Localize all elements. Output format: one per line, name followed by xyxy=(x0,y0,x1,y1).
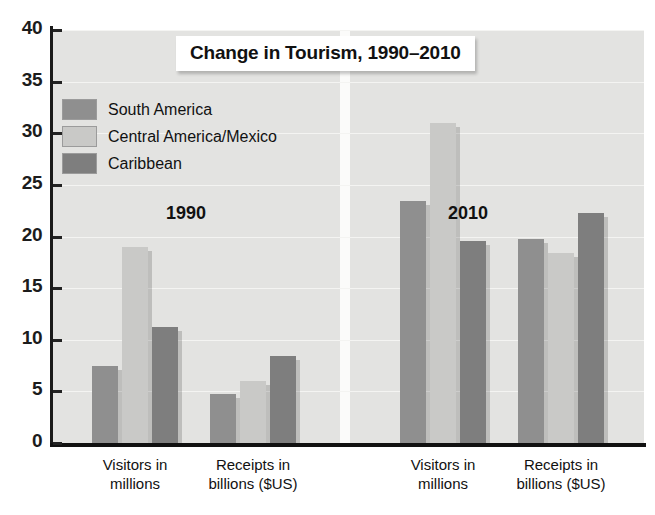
bars-layer xyxy=(52,30,644,443)
y-axis-tick xyxy=(53,236,62,239)
y-axis-tick-label: 40 xyxy=(2,17,42,39)
legend-swatch-icon-south-america xyxy=(62,99,97,120)
bar xyxy=(92,366,118,443)
legend-swatch-icon-caribbean xyxy=(62,153,97,174)
year-annotation-2010: 2010 xyxy=(448,203,488,224)
y-axis-tick xyxy=(53,287,62,290)
x-axis-tick-label-line1: Visitors in xyxy=(411,456,476,473)
bar xyxy=(518,239,544,443)
plot-area xyxy=(52,30,644,443)
legend-label-south-america: South America xyxy=(108,101,212,119)
y-axis-tick-label: 25 xyxy=(2,172,42,194)
y-axis-tick-label: 35 xyxy=(2,69,42,91)
y-axis-tick xyxy=(53,184,62,187)
y-axis-tick xyxy=(53,390,62,393)
bar xyxy=(400,201,426,443)
bar xyxy=(270,356,296,443)
bar xyxy=(548,253,574,443)
y-axis-tick xyxy=(53,29,62,32)
bar xyxy=(430,123,456,443)
x-axis-tick-label-line2: billions ($US) xyxy=(491,474,631,493)
legend-item-central-america: Central America/Mexico xyxy=(62,123,277,150)
y-axis-tick-label: 0 xyxy=(2,430,42,452)
y-axis-tick-label: 5 xyxy=(2,378,42,400)
x-axis-tick-label: Receipts inbillions ($US) xyxy=(183,455,323,493)
bar xyxy=(122,247,148,443)
y-axis-tick-label: 10 xyxy=(2,327,42,349)
chart-title: Change in Tourism, 1990–2010 xyxy=(176,36,475,71)
y-axis-tick-label: 20 xyxy=(2,224,42,246)
x-axis-tick-label-line1: Receipts in xyxy=(216,456,290,473)
bar xyxy=(152,327,178,443)
bar xyxy=(210,394,236,443)
tourism-bar-chart: 4035302520151050 Change in Tourism, 1990… xyxy=(0,0,655,515)
year-annotation-1990: 1990 xyxy=(166,203,206,224)
legend-item-caribbean: Caribbean xyxy=(62,150,277,177)
x-axis-tick-label-line1: Receipts in xyxy=(524,456,598,473)
x-axis-tick-label-line1: Visitors in xyxy=(103,456,168,473)
x-axis-line xyxy=(50,443,646,447)
x-axis-tick-label-line2: billions ($US) xyxy=(183,474,323,493)
legend-label-caribbean: Caribbean xyxy=(108,155,182,173)
y-axis-tick xyxy=(53,339,62,342)
bar xyxy=(460,241,486,443)
legend-swatch-icon-central-america xyxy=(62,126,97,147)
y-axis-tick xyxy=(53,442,62,445)
y-axis-tick-label: 30 xyxy=(2,120,42,142)
bar xyxy=(578,213,604,443)
legend-label-central-america: Central America/Mexico xyxy=(108,128,277,146)
chart-title-text: Change in Tourism, 1990–2010 xyxy=(190,42,461,64)
y-axis-tick xyxy=(53,132,62,135)
y-axis-tick-label: 15 xyxy=(2,275,42,297)
x-axis-tick-label: Receipts inbillions ($US) xyxy=(491,455,631,493)
bar xyxy=(240,381,266,443)
legend: South America Central America/Mexico Car… xyxy=(62,96,277,177)
y-axis-tick xyxy=(53,81,62,84)
legend-item-south-america: South America xyxy=(62,96,277,123)
